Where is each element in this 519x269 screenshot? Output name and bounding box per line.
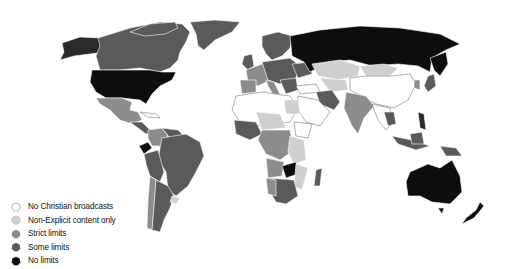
region-new-zealand (462, 202, 484, 224)
heptagon-icon (11, 256, 21, 266)
legend-item-strict-limits: Strict limits (11, 227, 116, 241)
legend-label: No limits (28, 256, 59, 265)
region-australia (406, 160, 462, 204)
region-east-africa (288, 136, 306, 164)
region-egypt (284, 100, 300, 114)
region-iberia (240, 80, 256, 94)
region-mexico (96, 98, 142, 124)
region-kazakhstan (312, 60, 360, 80)
region-mozambique (294, 164, 308, 190)
legend-item-non-explicit: Non-Explicit content only (11, 214, 116, 228)
region-namibia (266, 178, 276, 196)
heptagon-icon (11, 242, 21, 252)
region-greenland (190, 20, 240, 50)
legend-item-some-limits: Some limits (11, 241, 116, 255)
region-scandinavia (262, 32, 292, 60)
heptagon-icon (11, 215, 21, 225)
region-japan (424, 74, 436, 92)
region-korea (414, 80, 420, 90)
region-philippines (418, 112, 426, 130)
region-horn-africa (294, 122, 312, 138)
region-new-guinea (440, 146, 462, 156)
region-borneo (410, 132, 424, 144)
region-angola (266, 158, 284, 178)
legend-label: No Christian broadcasts (28, 202, 113, 211)
heptagon-icon (11, 229, 21, 239)
heptagon-outline-icon (11, 202, 21, 212)
legend-label: Some limits (28, 243, 69, 252)
region-mongolia (360, 64, 398, 76)
legend-item-no-limits: No limits (11, 254, 116, 268)
region-balkans (280, 78, 298, 94)
region-uruguay (170, 196, 180, 204)
legend-label: Strict limits (28, 229, 66, 238)
region-madagascar (314, 168, 322, 186)
region-tasmania (438, 208, 444, 214)
region-cuba (140, 112, 160, 118)
legend: No Christian broadcasts Non-Explicit con… (11, 200, 116, 268)
legend-item-no-broadcasts: No Christian broadcasts (11, 200, 116, 214)
region-central-asia (320, 78, 348, 92)
legend-label: Non-Explicit content only (28, 216, 116, 225)
